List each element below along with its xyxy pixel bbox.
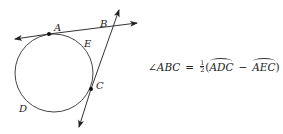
label-b: B	[99, 18, 107, 29]
label-c: C	[96, 80, 104, 91]
close-paren: )	[276, 61, 280, 73]
equals-sign: =	[185, 61, 194, 73]
label-e: E	[83, 38, 92, 49]
point-a	[47, 32, 51, 36]
angle-formula: ∠ABC = 1 2 ( ADC − AEC )	[148, 60, 280, 73]
fraction-denominator: 2	[200, 67, 204, 73]
secant-line-down	[79, 89, 91, 127]
label-a: A	[53, 22, 61, 33]
arc-aec: AEC	[252, 61, 275, 73]
tangent-line-left	[15, 34, 49, 39]
circle	[15, 34, 93, 112]
angle-symbol: ∠ABC	[148, 61, 180, 73]
one-half-fraction: 1 2	[200, 60, 204, 73]
point-c	[89, 87, 93, 91]
arc-adc: ADC	[209, 61, 233, 73]
label-d: D	[18, 103, 27, 114]
minus-sign: −	[238, 61, 247, 73]
tangent-line-right	[49, 23, 137, 34]
